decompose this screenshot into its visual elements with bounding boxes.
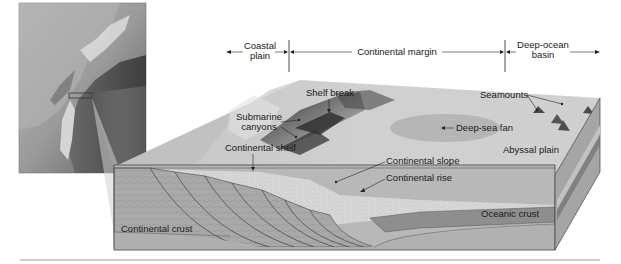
label-oceanic-crust: Oceanic crust [481, 208, 539, 219]
label-abyssal-plain: Abyssal plain [503, 144, 559, 155]
label-continental-rise: Continental rise [386, 172, 452, 183]
arrow-left-icon [506, 50, 510, 54]
label-continental-shelf: Continental shelf [225, 142, 296, 153]
zone-label-coastal-plain-2: plain [250, 50, 270, 61]
arrow-left-icon [290, 50, 294, 54]
arrow-right-icon [595, 50, 600, 54]
label-seamounts: Seamounts [480, 89, 528, 100]
arrow-right-icon [284, 50, 288, 54]
label-shelf-break: Shelf break [306, 87, 354, 98]
label-deep-sea-fan: Deep-sea fan [456, 122, 513, 133]
zone-label-deep-ocean-2: basin [532, 49, 555, 60]
zone-label-continental-margin: Continental margin [357, 46, 437, 57]
label-continental-crust: Continental crust [121, 223, 193, 234]
label-submarine-canyons-2: canyons [241, 121, 277, 132]
zone-headers: Coastal plain Continental margin Deep-oc… [226, 39, 600, 72]
continental-margin-diagram: Coastal plain Continental margin Deep-oc… [0, 0, 621, 264]
label-continental-slope: Continental slope [386, 155, 459, 166]
arrow-left-icon [226, 50, 231, 54]
arrow-right-icon [500, 50, 504, 54]
